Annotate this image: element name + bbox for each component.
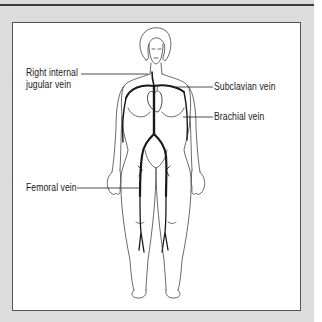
label-line-2: jugular vein bbox=[26, 79, 78, 91]
label-subclavian-vein: Subclavian vein bbox=[214, 81, 276, 93]
label-femoral-vein: Femoral vein bbox=[26, 182, 77, 194]
feet-outline bbox=[132, 290, 180, 298]
right-hand-outline bbox=[191, 170, 205, 194]
label-brachial-vein: Brachial vein bbox=[214, 111, 264, 123]
label-line-1: Right internal bbox=[26, 67, 78, 79]
femoral-vein bbox=[139, 196, 144, 252]
right-arm-outline bbox=[188, 86, 200, 172]
body-vein-illustration bbox=[0, 0, 322, 322]
label-right-internal-jugular-vein: Right internal jugular vein bbox=[26, 67, 78, 91]
leg-outline bbox=[121, 168, 191, 290]
leg-vein-right bbox=[162, 196, 168, 252]
jugular-vein bbox=[152, 72, 154, 86]
face-outline bbox=[149, 44, 163, 64]
left-hand-outline bbox=[107, 170, 121, 194]
brachial-vein bbox=[184, 92, 187, 140]
hair-outline bbox=[140, 28, 171, 61]
